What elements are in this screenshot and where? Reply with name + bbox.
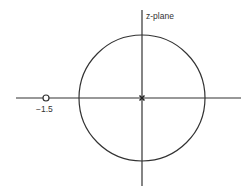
- plane-title: z-plane: [146, 11, 174, 21]
- z-plane-diagram: z-plane −1.5: [0, 0, 250, 194]
- zero-marker-icon: [43, 95, 49, 101]
- zero-label: −1.5: [36, 104, 53, 114]
